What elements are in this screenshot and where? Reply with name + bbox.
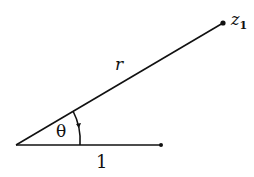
radius-label: r	[115, 56, 123, 73]
radius-line	[16, 23, 223, 145]
point-subscript: 1	[239, 19, 247, 32]
unit-label: 1	[96, 153, 107, 171]
polar-diagram: r θ 1 z1	[0, 0, 254, 177]
diagram-lines	[0, 0, 254, 177]
arc-arrow-icon	[76, 123, 81, 128]
point-z1-dot	[220, 20, 225, 25]
angle-arc	[73, 111, 80, 145]
angle-label: θ	[56, 123, 66, 140]
unit-end-dot	[159, 143, 163, 147]
point-z1-label: z1	[231, 12, 247, 31]
